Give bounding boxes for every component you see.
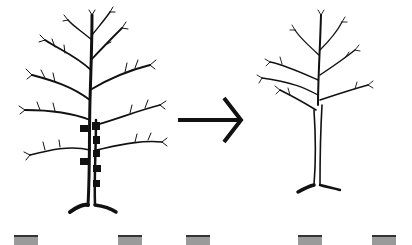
- strip-tab: [118, 235, 142, 245]
- strip-tab: [372, 235, 396, 245]
- strip-tab: [186, 235, 210, 245]
- right-arrow-icon: [178, 98, 241, 142]
- after-tree: [257, 10, 373, 192]
- before-tree: [19, 7, 167, 212]
- strip-tab: [14, 235, 38, 245]
- strip-tab: [298, 235, 322, 245]
